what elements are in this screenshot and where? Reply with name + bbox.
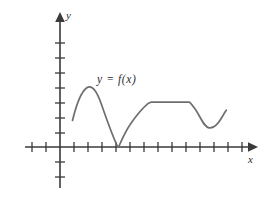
plot-canvas	[0, 0, 268, 199]
curve-equation-label: y = f(x)	[97, 73, 136, 85]
function-curve	[73, 87, 227, 147]
x-axis-arrowhead	[248, 142, 258, 152]
y-axis-label: y	[66, 10, 71, 21]
x-axis-label: x	[248, 154, 253, 165]
function-graph-figure: y x y = f(x)	[0, 0, 268, 199]
y-axis-arrowhead	[55, 12, 65, 22]
